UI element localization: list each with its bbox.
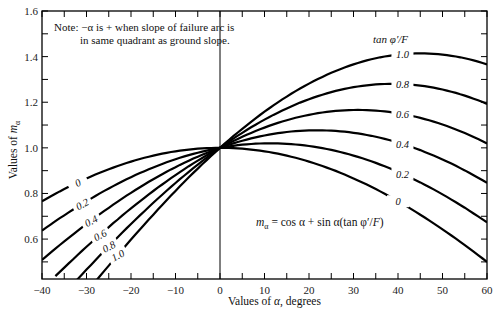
y-tick-label: 1.0 bbox=[24, 142, 38, 154]
legend-title: tan φ′/F bbox=[373, 33, 408, 45]
right-curve-label: 1.0 bbox=[396, 49, 410, 60]
formula: mα = cos α + sin α(tan φ′/F) bbox=[256, 216, 384, 231]
y-axis-label: Values of mα bbox=[7, 120, 22, 179]
plot-frame bbox=[42, 11, 487, 279]
x-tick-label: 30 bbox=[348, 284, 360, 296]
x-tick-label: −20 bbox=[122, 284, 140, 296]
right-curve-label: 0 bbox=[395, 196, 401, 207]
right-curve-labels: 1.00.80.60.40.20 bbox=[387, 48, 413, 207]
x-axis-label: Values of α, degrees bbox=[228, 295, 321, 308]
y-tick-label: 0.6 bbox=[24, 233, 38, 245]
x-tick-label: 0 bbox=[217, 284, 223, 296]
y-tick-label: 0.8 bbox=[24, 187, 38, 199]
right-curve-label: 0.6 bbox=[396, 109, 410, 120]
right-curve-label: 0.4 bbox=[396, 139, 410, 150]
chart: −40−30−20−1001020304050600.60.81.01.21.4… bbox=[0, 0, 496, 313]
x-tick-label: 60 bbox=[482, 284, 494, 296]
note-line-2: in same quadrant as ground slope. bbox=[80, 34, 230, 46]
curve-0-2 bbox=[42, 143, 487, 230]
y-tick-label: 1.4 bbox=[24, 51, 38, 63]
axis-ticks bbox=[42, 11, 487, 279]
x-tick-label: 50 bbox=[437, 284, 449, 296]
curve-0-8 bbox=[64, 84, 487, 294]
x-tick-label: −10 bbox=[167, 284, 185, 296]
x-tick-label: −40 bbox=[33, 284, 51, 296]
right-curve-label: 0.8 bbox=[396, 79, 410, 90]
curve-1-0 bbox=[87, 53, 488, 292]
right-curve-label: 0.2 bbox=[396, 169, 410, 180]
y-tick-label: 1.2 bbox=[24, 96, 38, 108]
note-line-1: Note: −α is + when slope of failure arc … bbox=[54, 21, 234, 33]
x-tick-label: −30 bbox=[78, 284, 96, 296]
y-tick-label: 1.6 bbox=[24, 5, 38, 17]
x-tick-label: 40 bbox=[393, 284, 405, 296]
